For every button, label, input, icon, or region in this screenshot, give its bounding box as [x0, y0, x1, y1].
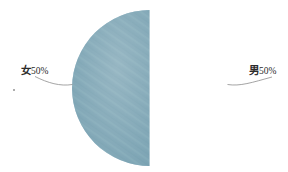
pie-label-female-category: 女: [21, 65, 31, 76]
scan-artifact-dot: [13, 89, 15, 91]
pie-chart-figure: 女50% 男50%: [0, 0, 288, 172]
pie-label-male-category: 男: [249, 65, 259, 76]
pie-label-female-percent: 50%: [31, 66, 48, 76]
leader-line-male: [228, 77, 273, 85]
pie-chart-canvas: [0, 0, 288, 172]
pie-label-male-percent: 50%: [259, 66, 276, 76]
pie-slice-male-highlight: [72, 10, 150, 166]
leader-line-female: [35, 77, 73, 86]
pie-label-female: 女50%: [21, 66, 48, 77]
pie-label-male: 男50%: [249, 66, 276, 77]
